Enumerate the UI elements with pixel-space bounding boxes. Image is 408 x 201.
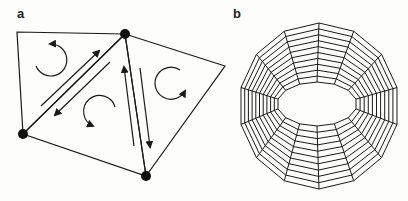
vertex-bottom (141, 171, 151, 181)
circulation-arrow-middle (84, 95, 115, 126)
vertex-left (18, 129, 28, 139)
vertex-top (120, 29, 130, 39)
figure-canvas (0, 0, 408, 201)
triangle-left (17, 32, 125, 134)
circulation-arrow-right (155, 67, 185, 99)
arrow-down-vertical (140, 68, 150, 147)
half-edge-arrows (41, 51, 150, 147)
circulation-arrow-left (36, 44, 67, 76)
triangle-right (125, 34, 225, 176)
panel-b-ring-mesh (241, 23, 397, 189)
arrow-up-vertical (124, 67, 134, 146)
circulation-arrows (36, 44, 185, 126)
panel-a-mesh (17, 32, 225, 176)
